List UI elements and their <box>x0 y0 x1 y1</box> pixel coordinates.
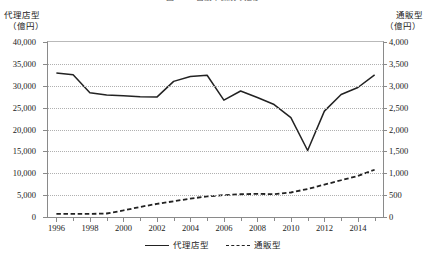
gridline <box>48 64 383 65</box>
series-line-primary <box>56 73 374 150</box>
y-axis-right-tick-label: 500 <box>389 191 426 200</box>
x-axis-tick-mark-minor <box>107 218 108 221</box>
x-axis-tick-mark-major <box>56 218 57 222</box>
x-axis-tick-mark-minor <box>308 218 309 221</box>
x-axis-tick-mark-major <box>123 218 124 222</box>
y-axis-right-tick-label: 3,000 <box>389 82 426 91</box>
dashed-line-icon <box>226 245 250 246</box>
y-axis-right-tick-mark <box>383 130 387 131</box>
y-axis-right-tick-mark <box>383 195 387 196</box>
x-axis-tick-mark-major <box>291 218 292 222</box>
legend-item[interactable]: 通販型 <box>226 241 281 250</box>
gridline <box>48 130 383 131</box>
y-axis-right-tick-label: 4,000 <box>389 38 426 47</box>
y-axis-left-tick-mark <box>43 86 47 87</box>
x-axis-tick-mark-minor <box>341 218 342 221</box>
y-axis-left-tick-mark <box>43 217 47 218</box>
y-axis-left-tick-mark <box>43 195 47 196</box>
y-axis-left-tick-label: 5,000 <box>0 191 36 200</box>
y-axis-right-tick-mark <box>383 64 387 65</box>
y-axis-right-tick-mark <box>383 173 387 174</box>
gridline <box>48 151 383 152</box>
x-axis-tick-mark-minor <box>375 218 376 221</box>
y-axis-left-tick-label: 30,000 <box>0 82 36 91</box>
x-axis-tick-mark-minor <box>73 218 74 221</box>
x-axis-tick-mark-major <box>157 218 158 222</box>
y-axis-left-tick-label: 25,000 <box>0 104 36 113</box>
x-axis-tick-mark-major <box>90 218 91 222</box>
legend-item-label: 通販型 <box>254 241 281 250</box>
gridline <box>48 108 383 109</box>
y-axis-right-tick-label: 1,000 <box>389 169 426 178</box>
y-axis-right-tick-label: 2,000 <box>389 126 426 135</box>
y-axis-left-tick-mark <box>43 151 47 152</box>
y-axis-left-tick-label: 35,000 <box>0 60 36 69</box>
y-axis-left-tick-mark <box>43 173 47 174</box>
y-axis-right-tick-label: 1,500 <box>389 147 426 156</box>
gridline <box>48 195 383 196</box>
x-axis-tick-mark-minor <box>140 218 141 221</box>
y-axis-right-tick-label: 0 <box>389 213 426 222</box>
y-axis-right-tick-mark <box>383 42 387 43</box>
legend-item[interactable]: 代理店型 <box>145 241 209 250</box>
x-axis-tick-mark-major <box>224 218 225 222</box>
y-axis-right-tick-mark <box>383 86 387 87</box>
plot-area <box>47 41 384 218</box>
x-axis-tick-label: 2014 <box>338 224 378 233</box>
x-axis-tick-mark-minor <box>274 218 275 221</box>
gridline <box>48 173 383 174</box>
left-axis-title-line1: 代理店型 <box>4 10 40 20</box>
gridline <box>48 86 383 87</box>
y-axis-left-tick-label: 0 <box>0 213 36 222</box>
x-axis-tick-mark-major <box>257 218 258 222</box>
left-axis-title: 代理店型 （億円） <box>4 10 48 31</box>
y-axis-right-tick-label: 2,500 <box>389 104 426 113</box>
y-axis-left-tick-mark <box>43 42 47 43</box>
y-axis-right-tick-mark <box>383 217 387 218</box>
x-axis-tick-mark-major <box>324 218 325 222</box>
solid-line-icon <box>145 245 169 246</box>
chart-figure: 図2-12 自動車保険の推移 代理店型 （億円） 通販型 （億円） 05,000… <box>0 0 426 254</box>
y-axis-left-tick-label: 15,000 <box>0 147 36 156</box>
x-axis-tick-mark-minor <box>207 218 208 221</box>
series-line-secondary <box>56 170 374 214</box>
legend-item-label: 代理店型 <box>173 241 209 250</box>
x-axis-tick-mark-major <box>190 218 191 222</box>
right-axis-title-line1: 通販型 <box>396 10 423 20</box>
x-axis-tick-mark-major <box>358 218 359 222</box>
right-axis-title: 通販型 （億円） <box>383 10 423 31</box>
y-axis-right-tick-label: 3,500 <box>389 60 426 69</box>
y-axis-left-tick-mark <box>43 64 47 65</box>
figure-title: 図2-12 自動車保険の推移 <box>0 0 426 1</box>
y-axis-left-tick-label: 40,000 <box>0 38 36 47</box>
x-axis-tick-mark-minor <box>241 218 242 221</box>
y-axis-left-tick-mark <box>43 130 47 131</box>
x-axis-tick-mark-minor <box>174 218 175 221</box>
legend: 代理店型通販型 <box>0 238 426 252</box>
y-axis-left-tick-mark <box>43 108 47 109</box>
right-axis-title-line2: （億円） <box>383 21 423 32</box>
y-axis-left-tick-label: 10,000 <box>0 169 36 178</box>
left-axis-title-line2: （億円） <box>4 21 48 32</box>
y-axis-right-tick-mark <box>383 108 387 109</box>
y-axis-left-tick-label: 20,000 <box>0 126 36 135</box>
y-axis-right-tick-mark <box>383 151 387 152</box>
